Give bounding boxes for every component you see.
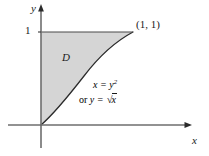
y-axis-arrowhead xyxy=(38,4,44,12)
equation-primary-exponent: 2 xyxy=(114,78,117,85)
equation-x-equals-y-squared: x = y2 xyxy=(79,78,117,91)
equation-primary-text: x = y xyxy=(93,79,114,90)
radicand-text: x xyxy=(112,93,117,105)
y-tick-label-one: 1 xyxy=(25,25,31,36)
equation-alternate-lhs: y = xyxy=(90,94,104,105)
equation-y-equals-sqrt-x: or y = √x xyxy=(79,94,117,106)
figure-region-d: y x 1 (1, 1) D x = y2 or y = √x xyxy=(0,0,209,156)
x-axis-label: x xyxy=(192,135,197,146)
radical-expression: √x xyxy=(106,94,117,106)
point-label-one-one: (1, 1) xyxy=(136,19,160,30)
equation-annotation-block: x = y2 or y = √x xyxy=(79,78,117,108)
region-label-d: D xyxy=(62,52,70,63)
x-axis-arrowhead xyxy=(185,122,193,128)
y-axis-label: y xyxy=(31,3,36,14)
